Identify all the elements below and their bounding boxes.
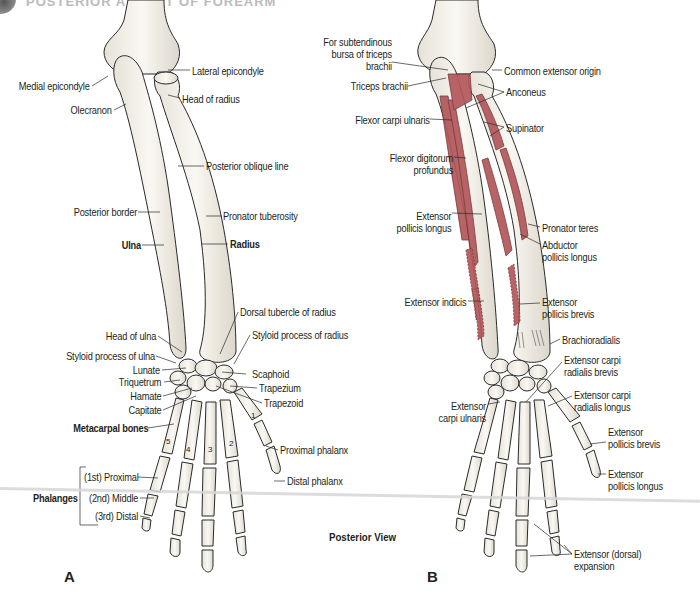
digit-3-b	[516, 402, 530, 572]
label-styloid-process-of-radius: Styloid process of radius	[252, 329, 348, 341]
label-metacarpal-bones: Metacarpal bones	[73, 422, 148, 434]
label-posterior-oblique-line: Posterior oblique line	[206, 160, 288, 172]
label-styloid-process-of-ulna: Styloid process of ulna	[66, 350, 155, 362]
label-posterior-border: Posterior border	[74, 206, 137, 218]
panel-a-bones	[104, 0, 280, 572]
label-flexor-carpi-ulnaris: Flexor carpi ulnaris	[355, 114, 430, 126]
label-scaphoid: Scaphoid	[252, 368, 289, 380]
label-radius: Radius	[230, 238, 260, 250]
label-phalanges: Phalanges	[33, 492, 78, 504]
label-extensor-pollicis-brevis-hand: Extensor pollicis brevis	[608, 426, 660, 450]
label-lunate: Lunate	[133, 364, 160, 376]
label-flexor-digitorum-profundus: Flexor digitorum profundus	[390, 152, 453, 176]
label-phalanx-3rd-distal: (3rd) Distal	[95, 510, 138, 522]
label-phalanx-2nd-middle: (2nd) Middle	[89, 492, 138, 504]
digit-2-a	[220, 400, 246, 556]
digit-3-a	[202, 402, 216, 572]
label-extensor-pollicis-longus-forearm: Extensor pollicis longus	[396, 210, 451, 234]
label-pronator-tuberosity: Pronator tuberosity	[223, 210, 298, 222]
label-capitate: Capitate	[129, 404, 162, 416]
metacarpal-number-2: 2	[229, 439, 234, 448]
label-subtendinous-bursa: For subtendinous bursa of triceps brachi…	[323, 36, 392, 72]
label-extensor-carpi-radialis-brevis: Extensor carpi radialis brevis	[564, 354, 621, 378]
carpals-a	[170, 359, 237, 399]
label-proximal-phalanx: Proximal phalanx	[280, 444, 348, 456]
label-dorsal-tubercle-of-radius: Dorsal tubercle of radius	[240, 306, 336, 318]
label-distal-phalanx: Distal phalanx	[287, 475, 343, 487]
label-head-of-radius: Head of radius	[182, 93, 240, 105]
view-label: Posterior View	[329, 531, 396, 543]
label-extensor-indicis: Extensor indicis	[404, 296, 466, 308]
panel-letter-b: B	[427, 568, 438, 585]
label-ulna: Ulna	[122, 239, 141, 251]
carpals-b	[484, 359, 551, 399]
label-extensor-pollicis-longus-hand: Extensor pollicis longus	[608, 468, 663, 492]
metacarpal-number-1: 1	[251, 411, 256, 420]
label-common-extensor-origin: Common extensor origin	[504, 65, 601, 77]
panel-letter-a: A	[64, 568, 75, 585]
label-phalanx-1st-proximal: (1st) Proximal	[84, 471, 139, 483]
label-lateral-epicondyle: Lateral epicondyle	[192, 65, 264, 77]
humerus-b	[418, 0, 496, 74]
label-abductor-pollicis-longus: Abductor pollicis longus	[542, 239, 597, 263]
label-extensor-carpi-ulnaris: Extensor carpi ulnaris	[438, 400, 486, 424]
label-extensor-dorsal-expansion: Extensor (dorsal) expansion	[574, 548, 641, 572]
label-extensor-carpi-radialis-longus: Extensor carpi radialis longus	[574, 389, 631, 413]
label-extensor-pollicis-brevis-forearm: Extensor pollicis brevis	[542, 296, 594, 320]
label-supinator: Supinator	[506, 122, 544, 134]
label-medial-epicondyle: Medial epicondyle	[19, 80, 90, 92]
label-anconeus: Anconeus	[506, 86, 546, 98]
label-hamate: Hamate	[131, 390, 162, 402]
label-brachioradialis: Brachioradialis	[562, 334, 620, 346]
metacarpal-number-4: 4	[186, 445, 191, 454]
metacarpal-number-5: 5	[166, 437, 171, 446]
label-head-of-ulna: Head of ulna	[106, 330, 156, 342]
label-pronator-teres: Pronator teres	[542, 222, 598, 234]
label-triquetrum: Triquetrum	[118, 376, 161, 388]
metacarpal-number-3: 3	[208, 445, 213, 454]
label-trapezium: Trapezium	[259, 382, 301, 394]
digit-2-b	[534, 400, 560, 556]
label-triceps-brachii: Triceps brachii	[351, 80, 408, 92]
label-trapezoid: Trapezoid	[264, 397, 303, 409]
label-olecranon: Olecranon	[71, 104, 112, 116]
